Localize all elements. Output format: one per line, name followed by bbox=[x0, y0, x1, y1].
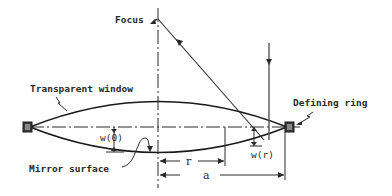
wr-arrow-bottom-icon bbox=[251, 142, 257, 146]
mirror-leader-arrow-icon bbox=[147, 146, 153, 152]
r-label: r bbox=[186, 155, 192, 168]
w0-label: w(0) bbox=[100, 132, 123, 143]
a-label: a bbox=[203, 169, 210, 182]
wr-label: w(r) bbox=[251, 149, 274, 160]
left-ring-icon bbox=[23, 122, 32, 132]
reflected-ray-arrow-icon bbox=[176, 39, 183, 46]
right-ring-icon bbox=[285, 122, 294, 132]
a-arrow-right-icon bbox=[278, 172, 284, 178]
mirror-diagram: Focus Transparent window Defining ring M… bbox=[0, 0, 392, 196]
transparent-window-label: Transparent window bbox=[30, 83, 133, 94]
defining-ring-label: Defining ring bbox=[293, 97, 368, 108]
defining-ring-arrow-icon bbox=[296, 121, 302, 125]
reflected-ray bbox=[158, 19, 264, 140]
mirror-surface-label: Mirror surface bbox=[29, 163, 109, 174]
focus-arrowhead-icon bbox=[150, 19, 156, 24]
a-arrow-left-icon bbox=[160, 172, 166, 178]
r-arrow-left-icon bbox=[160, 158, 166, 164]
wr-arrow-top-icon bbox=[251, 127, 257, 131]
incoming-ray-arrow-icon bbox=[266, 59, 272, 65]
r-arrow-right-icon bbox=[218, 158, 224, 164]
focus-label: Focus bbox=[115, 14, 144, 25]
transparent-window-leader bbox=[56, 97, 67, 111]
